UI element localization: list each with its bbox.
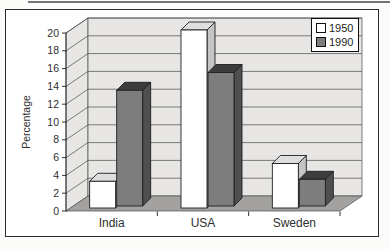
y-tick-label: 20 — [47, 27, 59, 39]
bar-USA-1950 — [181, 30, 207, 208]
category-label: India — [99, 216, 125, 230]
figure: 02468101214161820IndiaUSASwedenPercentag… — [0, 0, 390, 249]
y-tick-label: 16 — [47, 62, 59, 74]
y-tick-label: 0 — [53, 205, 59, 217]
y-tick-label: 6 — [53, 151, 59, 163]
bar-India-1950 — [90, 181, 116, 208]
legend-item-1990: 1990 — [316, 36, 353, 48]
bar-side-India-1990 — [143, 82, 151, 206]
bar-Sweden-1950 — [272, 164, 298, 209]
y-tick-label: 14 — [47, 80, 59, 92]
y-axis-title: Percentage — [20, 95, 32, 149]
legend-swatch-1990 — [316, 37, 326, 47]
legend-label-1950: 1950 — [329, 22, 353, 34]
bar-India-1990 — [117, 90, 143, 206]
y-tick-label: 2 — [53, 187, 59, 199]
legend-swatch-1950 — [316, 23, 326, 33]
category-label: USA — [191, 216, 216, 230]
legend-label-1990: 1990 — [329, 36, 353, 48]
y-tick-label: 18 — [47, 44, 59, 56]
bar-USA-1990 — [208, 73, 234, 207]
bar-side-USA-1990 — [234, 65, 242, 207]
bar-Sweden-1990 — [299, 179, 325, 206]
y-tick-label: 4 — [53, 169, 59, 181]
y-tick-label: 8 — [53, 133, 59, 145]
category-label: Sweden — [273, 216, 316, 230]
y-tick-label: 12 — [47, 98, 59, 110]
legend-item-1950: 1950 — [316, 22, 353, 34]
legend: 1950 1990 — [311, 18, 359, 52]
y-tick-label: 10 — [47, 116, 59, 128]
